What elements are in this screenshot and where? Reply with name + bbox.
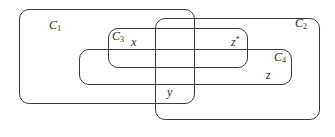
point-x-label: x <box>131 36 136 48</box>
point-y-label: y <box>167 86 172 98</box>
point-z-star-label: z* <box>231 36 240 48</box>
point-z-label: z <box>266 69 271 81</box>
set-c4-region <box>79 49 292 85</box>
set-c4-label: C4 <box>274 51 286 65</box>
set-c2-label: C2 <box>295 17 307 31</box>
set-c1-label: C1 <box>49 19 61 33</box>
set-c3-label: C3 <box>112 30 124 44</box>
